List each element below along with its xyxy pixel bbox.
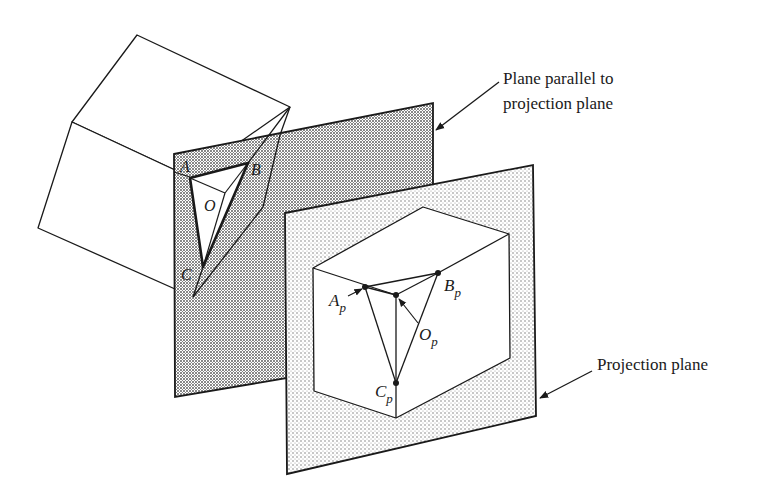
arrow-plane-parallel <box>436 82 499 130</box>
caption-plane-parallel-line1: Plane parallel to <box>503 66 613 91</box>
dot-Op <box>393 292 399 298</box>
caption-plane-parallel-line2: projection plane <box>503 91 613 116</box>
caption-projection-plane: Projection plane <box>597 352 708 377</box>
arrow-projection-plane <box>540 371 592 398</box>
label-B: B <box>251 161 261 178</box>
dot-Bp <box>435 270 441 276</box>
caption-plane-parallel: Plane parallel to projection plane <box>503 66 613 116</box>
label-C: C <box>181 266 192 283</box>
label-O: O <box>204 197 216 214</box>
dot-Cp <box>393 380 399 386</box>
label-A: A <box>179 158 190 175</box>
projection-diagram: A B O C Ap Bp Op Cp <box>0 0 784 498</box>
dot-Ap <box>362 284 368 290</box>
